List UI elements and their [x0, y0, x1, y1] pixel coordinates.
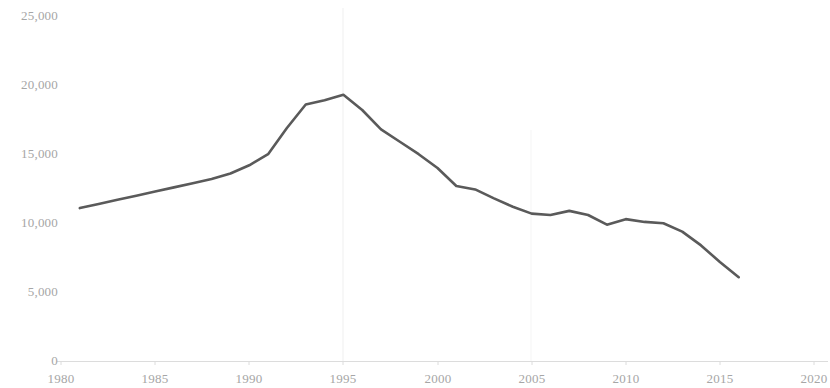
- x-axis-label-2005: 2005: [519, 371, 546, 387]
- x-axis-label-2000: 2000: [425, 371, 452, 387]
- x-axis-label-1995: 1995: [330, 371, 357, 387]
- data-series-group: [80, 95, 739, 277]
- x-axis-label-2010: 2010: [613, 371, 640, 387]
- y-axis-label-25000: 25,000: [21, 8, 58, 24]
- y-axis-label-15000: 15,000: [21, 146, 58, 162]
- y-axis-label-0: 0: [51, 353, 58, 369]
- x-axis-label-1990: 1990: [236, 371, 263, 387]
- y-axis-label-5000: 5,000: [28, 284, 58, 300]
- y-axis-label-20000: 20,000: [21, 77, 58, 93]
- chart-plot-area: [0, 0, 830, 388]
- gridlines-group: [343, 8, 531, 361]
- data-line-series-1: [80, 95, 739, 277]
- line-chart: 25,000 20,000 15,000 10,000 5,000 0 1980…: [0, 0, 830, 388]
- x-axis-label-1980: 1980: [48, 371, 75, 387]
- x-axis-label-2020: 2020: [801, 371, 828, 387]
- x-axis-label-2015: 2015: [707, 371, 734, 387]
- x-axis-label-1985: 1985: [142, 371, 169, 387]
- y-axis-label-10000: 10,000: [21, 215, 58, 231]
